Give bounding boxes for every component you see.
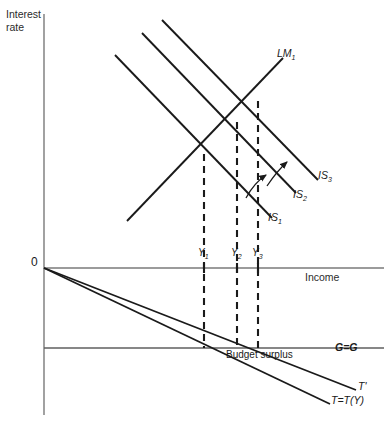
t-of-y-label: T=T(Y) bbox=[331, 395, 364, 407]
origin-label: 0 bbox=[31, 256, 38, 269]
diagram-canvas bbox=[0, 0, 384, 435]
is-2-label-text: IS bbox=[293, 188, 303, 200]
is-3-curve bbox=[162, 20, 318, 180]
x-axis-title: Income bbox=[305, 272, 339, 284]
is-3-label: IS3 bbox=[318, 170, 332, 184]
is-1-label: IS1 bbox=[268, 212, 282, 226]
is-1-label-sub: 1 bbox=[278, 218, 282, 225]
is-2-label: IS2 bbox=[293, 189, 307, 203]
y1-text: Y bbox=[198, 247, 205, 258]
y-axis-title-line1: Interest bbox=[6, 8, 41, 21]
t-of-y-line bbox=[44, 268, 330, 404]
is-2-label-sub: 2 bbox=[303, 195, 307, 202]
is-3-label-sub: 3 bbox=[328, 176, 332, 183]
y1-sub: 1 bbox=[205, 253, 209, 260]
government-spending-label: G=G bbox=[335, 342, 357, 354]
y2-text: Y bbox=[231, 247, 238, 258]
y2-sub: 2 bbox=[238, 253, 242, 260]
equilibrium-label-y2: Y2 bbox=[231, 247, 242, 261]
lm-1-label-text: LM bbox=[277, 47, 292, 59]
lm-1-label: LM1 bbox=[277, 48, 296, 62]
is-1-label-text: IS bbox=[268, 211, 278, 223]
y3-sub: 3 bbox=[259, 253, 263, 260]
budget-surplus-annotation: Budget surplus bbox=[226, 349, 293, 360]
y-axis-title-line2: rate bbox=[6, 21, 41, 34]
is-lm-budget-surplus-figure: Interest rate 0 Income LM1 IS3 IS2 IS1 Y… bbox=[0, 0, 384, 435]
is-3-label-text: IS bbox=[318, 169, 328, 181]
equilibrium-label-y1: Y1 bbox=[198, 247, 209, 261]
y3-text: Y bbox=[252, 247, 259, 258]
y-axis-title: Interest rate bbox=[6, 8, 41, 34]
is-2-curve bbox=[142, 33, 296, 193]
t-prime-label: T' bbox=[358, 381, 366, 393]
t-prime-line bbox=[44, 268, 356, 390]
equilibrium-label-y3: Y3 bbox=[252, 247, 263, 261]
lm-1-label-sub: 1 bbox=[292, 54, 296, 61]
